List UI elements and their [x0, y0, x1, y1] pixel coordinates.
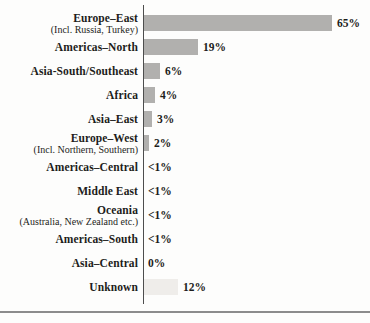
category-labels: Europe–West (Incl. Northern, Southern) — [0, 132, 143, 155]
category-label: Asia-South/Southeast — [0, 65, 138, 77]
category-labels: Asia-South/Southeast — [0, 65, 143, 77]
category-label: Asia–East — [0, 113, 138, 125]
category-labels: Oceania (Australia, New Zealand etc.) — [0, 204, 143, 227]
value-label: 65% — [337, 17, 360, 29]
category-label: Americas–South — [0, 233, 138, 245]
chart-row: Americas–North 19% — [0, 35, 370, 59]
category-labels: Asia–East — [0, 113, 143, 125]
category-label: Americas–Central — [0, 161, 138, 173]
bar-cell: 19% — [143, 35, 370, 59]
category-label: Unknown — [0, 281, 138, 293]
axis-line — [143, 5, 144, 304]
bar — [143, 87, 155, 103]
value-label: 19% — [203, 41, 226, 53]
value-label: 4% — [160, 89, 177, 101]
figure: Europe–East (Incl. Russia, Turkey) 65% A… — [0, 0, 370, 323]
category-labels: Americas–Central — [0, 161, 143, 173]
value-label: <1% — [148, 185, 172, 197]
bar — [143, 111, 152, 127]
category-sublabel: (Australia, New Zealand etc.) — [0, 216, 138, 227]
bar — [143, 39, 198, 55]
bar — [143, 15, 332, 31]
chart-row: Oceania (Australia, New Zealand etc.) <1… — [0, 203, 370, 227]
chart-row: Asia–Central 0% — [0, 251, 370, 275]
value-label: <1% — [148, 209, 172, 221]
bar — [143, 279, 178, 295]
value-label: 0% — [148, 257, 165, 269]
category-label: Europe–East — [0, 12, 138, 24]
bar-cell: 2% — [143, 131, 370, 155]
bar-cell: 6% — [143, 59, 370, 83]
category-labels: Middle East — [0, 185, 143, 197]
category-sublabel: (Incl. Northern, Southern) — [0, 144, 138, 155]
bar-cell: <1% — [143, 179, 370, 203]
bar-cell: <1% — [143, 155, 370, 179]
chart-row: Africa 4% — [0, 83, 370, 107]
category-label: Asia–Central — [0, 257, 138, 269]
value-label: 3% — [157, 113, 174, 125]
chart-row: Unknown 12% — [0, 275, 370, 299]
value-label: 6% — [165, 65, 182, 77]
value-label: <1% — [148, 161, 172, 173]
category-label: Europe–West — [0, 132, 138, 144]
bottom-rule — [0, 311, 370, 313]
chart-row: Americas–Central <1% — [0, 155, 370, 179]
chart-row: Asia-South/Southeast 6% — [0, 59, 370, 83]
category-labels: Europe–East (Incl. Russia, Turkey) — [0, 12, 143, 35]
value-label: 2% — [154, 137, 171, 149]
bar-cell: 65% — [143, 11, 370, 35]
category-labels: Asia–Central — [0, 257, 143, 269]
bar-cell: 12% — [143, 275, 370, 299]
chart-row: Middle East <1% — [0, 179, 370, 203]
category-label: Africa — [0, 89, 138, 101]
chart-row: Asia–East 3% — [0, 107, 370, 131]
category-label: Americas–North — [0, 41, 138, 53]
category-labels: Africa — [0, 89, 143, 101]
chart-rows: Europe–East (Incl. Russia, Turkey) 65% A… — [0, 11, 370, 299]
category-label: Middle East — [0, 185, 138, 197]
bar-chart: Europe–East (Incl. Russia, Turkey) 65% A… — [0, 11, 370, 299]
bar-cell: <1% — [143, 227, 370, 251]
bar — [143, 63, 160, 79]
value-label: 12% — [183, 281, 206, 293]
value-label: <1% — [148, 233, 172, 245]
chart-row: Americas–South <1% — [0, 227, 370, 251]
bar-cell: <1% — [143, 203, 370, 227]
bar-cell: 4% — [143, 83, 370, 107]
chart-row: Europe–East (Incl. Russia, Turkey) 65% — [0, 11, 370, 35]
bar-cell: 0% — [143, 251, 370, 275]
category-labels: Americas–South — [0, 233, 143, 245]
category-labels: Americas–North — [0, 41, 143, 53]
category-sublabel: (Incl. Russia, Turkey) — [0, 24, 138, 35]
chart-row: Europe–West (Incl. Northern, Southern) 2… — [0, 131, 370, 155]
category-labels: Unknown — [0, 281, 143, 293]
bar-cell: 3% — [143, 107, 370, 131]
category-label: Oceania — [0, 204, 138, 216]
